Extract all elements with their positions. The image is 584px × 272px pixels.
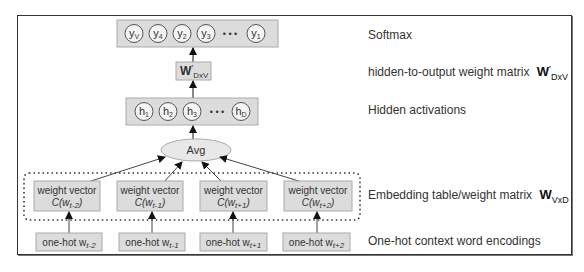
weight-vector-box: weight vector C(wt+1) (200, 181, 267, 211)
label-embedding: Embedding table/weight matrix WVxD (368, 187, 569, 205)
label-hidden-to-output: hidden-to-output weight matrix W'DxV (368, 64, 568, 82)
one-hot-box: one-hot wt+2 (283, 233, 350, 251)
hidden-node: h2 (159, 103, 177, 121)
one-hot-box: one-hot wt-1 (119, 233, 185, 251)
matrix-symbol: W'DxV (537, 64, 568, 79)
softmax-node: y3 (197, 25, 215, 43)
label-one-hot-context: One-hot context word encodings (368, 234, 541, 248)
avg-node: Avg (161, 139, 231, 161)
weight-vector-box: weight vector C(wt-1) (117, 181, 183, 211)
softmax-layer: yV y4 y2 y3 • • • y1 (117, 20, 278, 47)
label-text: Embedding table/weight matrix (368, 188, 532, 202)
weight-vector-box: weight vector C(wt+2) (284, 181, 352, 211)
svg-text:weight vector: weight vector (120, 185, 181, 196)
cbow-diagram: yV y4 y2 y3 • • • y1 W'DxV h1 (0, 0, 584, 272)
one-hot-box: one-hot wt-2 (36, 233, 102, 251)
ellipsis: • • • (210, 107, 224, 117)
softmax-node: yV (125, 25, 143, 43)
label-text: hidden-to-output weight matrix (368, 65, 529, 79)
hidden-node: h1 (135, 103, 153, 121)
hidden-layer: h1 h2 h3 • • • hD (126, 98, 258, 125)
label-hidden-activations: Hidden activations (368, 103, 466, 117)
matrix-symbol: WVxD (539, 187, 568, 202)
weight-vector-box: weight vector C(wt-2) (34, 181, 100, 211)
softmax-node: y1 (247, 25, 265, 43)
label-softmax: Softmax (368, 28, 412, 42)
hidden-node: h3 (183, 103, 201, 121)
one-hot-box: one-hot wt+1 (200, 233, 267, 251)
output-weight-matrix: W'DxV (176, 62, 211, 80)
softmax-node: y4 (149, 25, 167, 43)
svg-text:weight vector: weight vector (37, 185, 98, 196)
softmax-node: y2 (173, 25, 191, 43)
hidden-node: hD (232, 103, 250, 121)
svg-text:weight vector: weight vector (288, 185, 349, 196)
svg-text:weight vector: weight vector (203, 185, 264, 196)
ellipsis: • • • (223, 29, 237, 39)
svg-text:Avg: Avg (187, 144, 206, 156)
